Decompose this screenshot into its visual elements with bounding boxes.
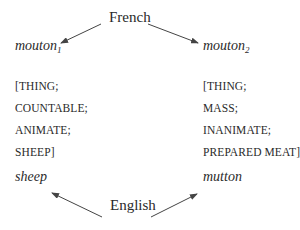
mouton2-subscript: 2 [245, 45, 250, 55]
mouton2-label: mouton2 [203, 39, 250, 55]
mouton1-label: mouton1 [15, 39, 62, 55]
arrows-layer [0, 0, 300, 230]
mutton-label: mutton [203, 170, 242, 184]
left-feature-1: [THING; [15, 81, 59, 93]
mouton1-word: mouton [15, 38, 57, 53]
arrow-french-to-mouton2 [148, 24, 198, 43]
right-feature-4: PREPARED MEAT] [203, 147, 300, 159]
left-feature-4: SHEEP] [15, 147, 55, 159]
mouton2-word: mouton [203, 38, 245, 53]
right-feature-3: INANIMATE; [203, 125, 271, 137]
left-feature-3: ANIMATE; [15, 125, 71, 137]
english-label: English [110, 198, 156, 213]
left-feature-2: COUNTABLE; [15, 103, 88, 115]
arrow-english-to-mutton [151, 194, 197, 217]
arrow-french-to-mouton1 [61, 24, 101, 43]
right-feature-2: MASS; [203, 103, 238, 115]
right-feature-1: [THING; [203, 81, 247, 93]
mouton1-subscript: 1 [57, 45, 62, 55]
sheep-label: sheep [15, 170, 47, 184]
arrow-english-to-sheep [52, 193, 102, 217]
french-label: French [109, 10, 151, 25]
